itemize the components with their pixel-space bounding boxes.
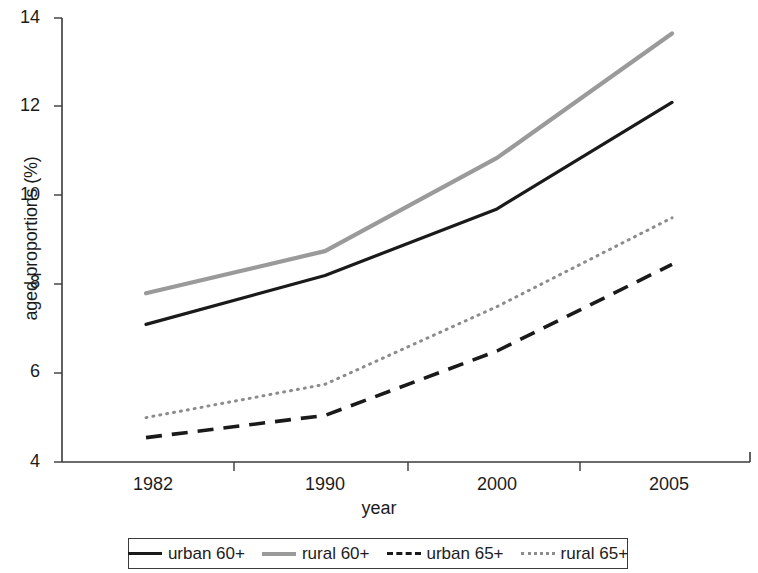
legend-label-rural-65: rural 65+ [561,544,629,564]
legend-swatch-rural-60 [262,552,296,556]
series-line-rural-65 [146,218,672,418]
series-line-urban-65 [146,264,672,437]
axis-lines [62,18,750,462]
legend-label-urban-65: urban 65+ [427,544,504,564]
legend-swatch-urban-65 [387,552,421,555]
chart-figure: aged proportions (%) 14 12 10 8 6 4 1982… [0,0,758,573]
legend-label-urban-60: urban 60+ [168,544,245,564]
series-layer [146,34,672,438]
legend-swatch-rural-65 [521,552,555,555]
legend-item-urban-65[interactable]: urban 65+ [387,544,504,564]
plot-area [0,0,758,573]
series-line-urban-60 [146,102,672,324]
series-line-rural-60 [146,34,672,294]
legend-item-rural-60[interactable]: rural 60+ [262,544,370,564]
legend-label-rural-60: rural 60+ [302,544,370,564]
x-axis-ticks [234,462,580,471]
legend-item-rural-65[interactable]: rural 65+ [521,544,629,564]
y-axis-ticks [54,18,62,462]
legend-swatch-urban-60 [128,552,162,555]
chart-legend: urban 60+ rural 60+ urban 65+ rural 65+ [128,538,628,569]
legend-item-urban-60[interactable]: urban 60+ [128,544,245,564]
